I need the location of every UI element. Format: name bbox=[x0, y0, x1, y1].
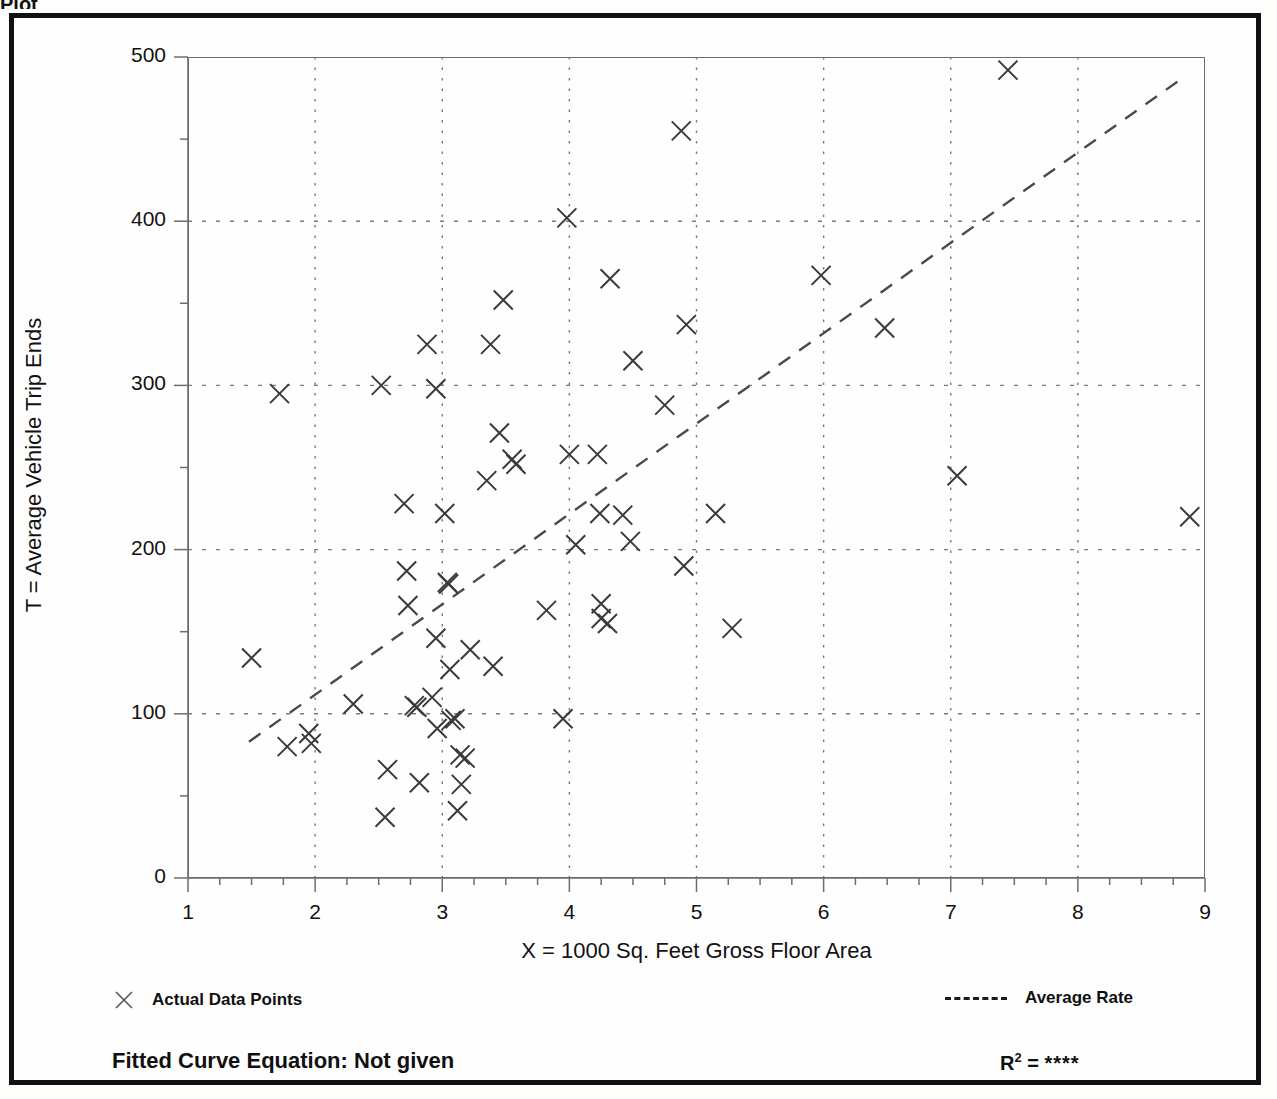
fitted-curve-equation: Fitted Curve Equation: Not given bbox=[112, 1048, 454, 1074]
x-tick-label-1: 1 bbox=[148, 900, 228, 924]
x-tick-label-9: 9 bbox=[1165, 900, 1245, 924]
y-tick-label-200: 200 bbox=[58, 536, 166, 560]
plot-area-frame bbox=[188, 57, 1205, 878]
y-tick-label-0: 0 bbox=[58, 864, 166, 888]
x-tick-label-4: 4 bbox=[529, 900, 609, 924]
x-axis-title: X = 1000 Sq. Feet Gross Floor Area bbox=[188, 938, 1205, 964]
y-tick-label-400: 400 bbox=[58, 207, 166, 231]
legend-item-actual-data-points: Actual Data Points bbox=[112, 988, 302, 1012]
legend-label-average: Average Rate bbox=[1025, 988, 1133, 1008]
x-marker-icon bbox=[112, 988, 136, 1012]
r-squared-symbol: R bbox=[1000, 1052, 1014, 1074]
x-tick-label-2: 2 bbox=[275, 900, 355, 924]
r-squared-annotation: R2 = **** bbox=[1000, 1050, 1080, 1075]
r-squared-exponent: 2 bbox=[1014, 1050, 1021, 1065]
legend-item-average-rate: Average Rate bbox=[945, 988, 1133, 1008]
r-squared-equals: = bbox=[1022, 1052, 1045, 1074]
legend-label-actual: Actual Data Points bbox=[152, 990, 302, 1010]
cropped-title-sliver: Plot bbox=[0, 0, 1277, 9]
chart-page: Plot T = Average Vehicle Trip Ends X = 1… bbox=[0, 0, 1277, 1099]
y-tick-label-500: 500 bbox=[58, 43, 166, 67]
x-tick-label-3: 3 bbox=[402, 900, 482, 924]
x-tick-label-5: 5 bbox=[657, 900, 737, 924]
y-tick-label-300: 300 bbox=[58, 371, 166, 395]
y-axis-title: T = Average Vehicle Trip Ends bbox=[21, 235, 47, 695]
x-tick-label-6: 6 bbox=[784, 900, 864, 924]
y-tick-label-100: 100 bbox=[58, 700, 166, 724]
x-tick-label-8: 8 bbox=[1038, 900, 1118, 924]
x-tick-label-7: 7 bbox=[911, 900, 991, 924]
dashed-line-icon bbox=[945, 997, 1007, 1000]
r-squared-value: **** bbox=[1044, 1052, 1079, 1074]
